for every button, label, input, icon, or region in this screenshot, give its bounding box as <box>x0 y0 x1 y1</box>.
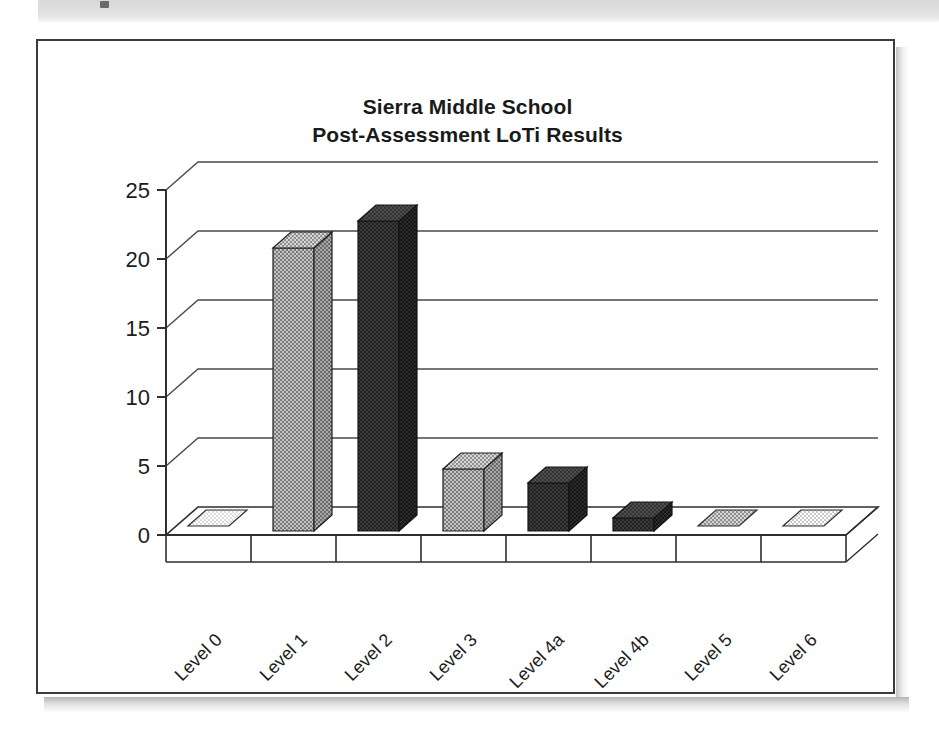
x-tick-label-level-4a: Level 4a <box>506 629 569 692</box>
x-tick-label-level-2: Level 2 <box>341 630 396 685</box>
y-tick-label-20: 20 <box>126 247 150 272</box>
scan-artifact-band <box>38 0 939 22</box>
y-tick-label-5: 5 <box>138 454 150 479</box>
x-tick-label-level-0: Level 0 <box>171 630 226 685</box>
y-tick-label-0: 0 <box>138 523 150 548</box>
bar-level-3[interactable] <box>443 453 502 531</box>
y-axis <box>157 190 166 535</box>
x-tick-label-level-6: Level 6 <box>766 630 821 685</box>
figure-drop-shadow-right <box>896 47 909 697</box>
x-axis-category-labels: Level 0 Level 1 Level 2 Level 3 Level 4a… <box>171 629 821 692</box>
bar-level-1[interactable] <box>273 232 332 531</box>
x-tick-label-level-1: Level 1 <box>256 630 311 685</box>
scan-speck <box>100 1 109 8</box>
x-tick-label-level-4b: Level 4b <box>591 630 653 692</box>
y-tick-label-15: 15 <box>126 316 150 341</box>
figure-drop-shadow-bottom <box>44 697 909 713</box>
figure-frame: Sierra Middle School Post-Assessment LoT… <box>36 39 895 694</box>
bar-chart-plot: 25 20 15 10 5 0 <box>38 41 897 696</box>
y-tick-label-10: 10 <box>126 385 150 410</box>
x-tick-label-level-3: Level 3 <box>426 630 481 685</box>
y-axis-tick-labels: 25 20 15 10 5 0 <box>126 178 150 548</box>
bar-level-2[interactable] <box>358 205 417 531</box>
x-tick-label-level-5: Level 5 <box>681 630 736 685</box>
bar-level-4a[interactable] <box>528 467 587 531</box>
y-tick-label-25: 25 <box>126 178 150 203</box>
